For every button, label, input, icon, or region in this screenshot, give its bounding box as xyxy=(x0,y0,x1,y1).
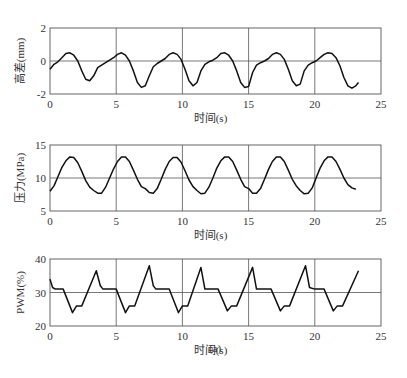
x-tick-labels: 0510152025 xyxy=(47,215,387,227)
x-tick-label: 15 xyxy=(243,98,255,110)
x-tick-label: 10 xyxy=(177,215,189,227)
x-axis-label: 时间(s) xyxy=(194,229,228,242)
y-tick-label: 30 xyxy=(35,287,47,299)
x-tick-label: 0 xyxy=(47,330,53,342)
y-tick-labels: -202 xyxy=(37,22,47,100)
x-tick-label: 10 xyxy=(177,330,189,342)
y-axis-label: 高差(mm) xyxy=(13,37,27,84)
panel-pressure: 51015 0510152025 时间(s) 压力(MPa) xyxy=(14,139,387,242)
y-tick-label: 5 xyxy=(41,205,47,217)
pressure-curve xyxy=(50,157,356,194)
panel-height-difference: -202 0510152025 时间(s) 高差(mm) xyxy=(13,22,387,125)
chart-figure: -202 0510152025 时间(s) 高差(mm) 51015 05101… xyxy=(0,0,407,378)
x-tick-label: 25 xyxy=(376,330,388,342)
gridlines xyxy=(50,259,381,326)
gridlines xyxy=(50,28,381,94)
y-axis-label: PWM(%) xyxy=(14,271,27,314)
x-tick-label: 5 xyxy=(113,98,119,110)
x-tick-label: 25 xyxy=(376,98,388,110)
x-tick-label: 0 xyxy=(47,98,53,110)
figure-caption: (a) xyxy=(209,342,222,355)
y-tick-label: 2 xyxy=(41,22,47,34)
y-tick-label: 20 xyxy=(35,320,47,332)
pwm-curve xyxy=(50,266,359,313)
y-tick-label: 40 xyxy=(35,253,47,265)
x-tick-labels: 0510152025 xyxy=(47,98,387,110)
y-axis-label: 压力(MPa) xyxy=(14,153,27,203)
panel-pwm: 203040 0510152025 时间(s) PWM(%) xyxy=(14,253,387,357)
x-tick-label: 25 xyxy=(376,215,388,227)
x-tick-label: 20 xyxy=(309,215,321,227)
y-tick-label: 0 xyxy=(41,55,47,67)
y-tick-label: 10 xyxy=(35,172,47,184)
x-tick-label: 15 xyxy=(243,330,255,342)
x-tick-label: 10 xyxy=(177,98,189,110)
y-tick-label: -2 xyxy=(37,88,46,100)
x-tick-label: 20 xyxy=(309,98,321,110)
y-tick-labels: 203040 xyxy=(35,253,47,332)
x-axis-label: 时间(s) xyxy=(194,112,228,125)
x-tick-label: 5 xyxy=(113,330,119,342)
x-tick-label: 15 xyxy=(243,215,255,227)
x-tick-label: 20 xyxy=(309,330,321,342)
x-tick-label: 5 xyxy=(113,215,119,227)
x-tick-label: 0 xyxy=(47,215,53,227)
x-tick-labels: 0510152025 xyxy=(47,330,387,342)
y-tick-label: 15 xyxy=(35,139,47,151)
gridlines xyxy=(50,145,381,211)
height-difference-curve xyxy=(50,53,359,88)
y-tick-labels: 51015 xyxy=(35,139,47,217)
